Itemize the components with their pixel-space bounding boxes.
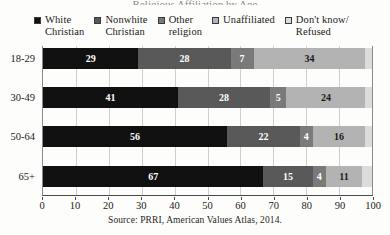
legend-item-other_religion: Other religion: [158, 14, 202, 37]
bar-segment: [362, 166, 372, 187]
bar-segment: 11: [326, 166, 362, 187]
bar-segment: 15: [263, 166, 312, 187]
legend-swatch-icon: [34, 17, 41, 24]
source-note: Source: PRRI, American Values Atlas, 201…: [0, 214, 390, 226]
bar-segment: 16: [313, 126, 366, 147]
chart-page: Religious Affiliation by Age White Chris…: [0, 0, 390, 235]
bar-segment: 41: [43, 87, 178, 108]
x-axis-tick-label: 60: [235, 200, 246, 212]
bar-segment: 56: [43, 126, 227, 147]
bar-row: 2928734: [43, 48, 372, 69]
bar-segment: [365, 48, 372, 69]
chart-legend: White ChristianNonwhite ChristianOther r…: [34, 14, 386, 44]
legend-item-label: Unaffiliated: [223, 14, 275, 26]
legend-item-unaffiliated: Unaffiliated: [212, 14, 275, 26]
bar-segment: 67: [43, 166, 263, 187]
x-axis-tick-label: 0: [39, 200, 44, 212]
bar-value-label: 7: [240, 54, 245, 64]
x-axis-tick-label: 100: [365, 200, 381, 212]
category-label-18-29: 18-29: [11, 48, 36, 69]
bar-segment: 22: [227, 126, 299, 147]
x-axis: 0102030405060708090100: [42, 197, 373, 211]
chart-title-cropped: Religious Affiliation by Age: [0, 0, 390, 5]
bar-row: 6715411: [43, 166, 372, 187]
bar-value-label: 67: [148, 172, 158, 182]
bar-value-label: 11: [339, 172, 348, 182]
legend-item-dont_know: Don't know/ Refused: [285, 14, 349, 37]
legend-item-nonwhite_christian: Nonwhite Christian: [94, 14, 147, 37]
bar-segment: 29: [43, 48, 138, 69]
category-label-50-64: 50-64: [11, 126, 36, 147]
legend-item-label: White Christian: [45, 14, 84, 37]
x-axis-tick-label: 30: [136, 200, 147, 212]
bar-row: 4128524: [43, 87, 372, 108]
legend-item-white_christian: White Christian: [34, 14, 84, 37]
x-axis-tick-label: 50: [202, 200, 213, 212]
bar-value-label: 4: [304, 132, 309, 142]
bar-segment: 4: [313, 166, 326, 187]
plot-area: 2928734412852456224166715411: [42, 46, 373, 196]
legend-swatch-icon: [212, 17, 219, 24]
bar-segment: [365, 87, 372, 108]
bar-value-label: 28: [219, 93, 229, 103]
bar-rows: 2928734412852456224166715411: [43, 46, 372, 195]
category-label-65+: 65+: [19, 166, 35, 187]
x-axis-tick-label: 10: [70, 200, 81, 212]
legend-item-label: Don't know/ Refused: [296, 14, 349, 37]
bar-segment: 5: [270, 87, 286, 108]
legend-item-label: Nonwhite Christian: [105, 14, 147, 37]
x-axis-tick-label: 90: [335, 200, 346, 212]
bar-row: 5622416: [43, 126, 372, 147]
x-axis-tick-label: 70: [268, 200, 279, 212]
bar-value-label: 24: [321, 93, 331, 103]
legend-swatch-icon: [94, 17, 101, 24]
bar-segment: [365, 126, 372, 147]
x-axis-tick-label: 80: [302, 200, 313, 212]
bar-value-label: 4: [317, 172, 322, 182]
bar-value-label: 15: [283, 172, 293, 182]
bar-segment: 34: [254, 48, 366, 69]
legend-item-label: Other religion: [169, 14, 202, 37]
bar-segment: 24: [286, 87, 365, 108]
category-label-30-49: 30-49: [11, 87, 36, 108]
category-axis-labels: 18-2930-4950-6465+: [0, 46, 38, 196]
x-axis-tick-label: 40: [169, 200, 180, 212]
x-axis-tick-label: 20: [103, 200, 114, 212]
bar-segment: 28: [178, 87, 270, 108]
bar-value-label: 29: [86, 54, 96, 64]
legend-swatch-icon: [285, 17, 292, 24]
bar-value-label: 16: [334, 132, 344, 142]
legend-swatch-icon: [158, 17, 165, 24]
bar-value-label: 34: [304, 54, 314, 64]
bar-value-label: 5: [276, 93, 281, 103]
bar-value-label: 56: [130, 132, 140, 142]
bar-value-label: 28: [179, 54, 189, 64]
bar-segment: 4: [300, 126, 313, 147]
bar-segment: 7: [231, 48, 254, 69]
bar-value-label: 41: [105, 93, 115, 103]
bar-segment: 28: [138, 48, 230, 69]
bar-value-label: 22: [258, 132, 268, 142]
